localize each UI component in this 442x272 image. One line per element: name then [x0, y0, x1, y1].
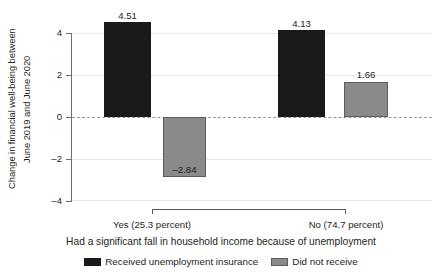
y-axis-tick-mark-neg4	[66, 201, 72, 202]
category-label-no: No (74.7 percent)	[286, 219, 406, 231]
y-tick-text-neg2: –2	[40, 154, 62, 164]
y-tick-text-neg4: –4	[40, 196, 62, 206]
bar-no-received-unemployment-insurance	[278, 30, 325, 117]
bar-yes-received-unemployment-insurance	[104, 22, 151, 117]
y-tick-text-2: 2	[40, 70, 62, 80]
gridline-neg2	[72, 159, 432, 160]
legend-label-received: Received unemployment insurance	[105, 256, 258, 268]
bar-no-did-not-receive	[344, 82, 388, 117]
bar-value-no-received: 4.13	[268, 18, 335, 29]
chart-figure: Change in financial well-being between J…	[0, 0, 442, 272]
bar-value-yes-received: 4.51	[94, 10, 161, 21]
category-label-yes: Yes (25.3 percent)	[92, 219, 212, 231]
y-tick-text-4: 4	[40, 28, 62, 38]
y-tick-label-0: 0	[40, 112, 62, 122]
black-swatch-icon	[84, 258, 101, 266]
y-tick-text-0: 0	[40, 112, 62, 122]
legend-label-did-not-receive: Did not receive	[292, 256, 357, 268]
y-tick-label-2: 2	[40, 70, 62, 80]
zero-baseline	[72, 117, 432, 118]
plot-area: 4.51 –2.84 4.13 1.66	[72, 33, 432, 201]
chart-legend: Received unemployment insurance Did not …	[0, 256, 442, 268]
y-axis-title: Change in financial well-being between J…	[0, 0, 36, 218]
y-tick-label-neg4: –4	[40, 196, 62, 206]
y-axis-title-line-2: June 2019 and June 2020	[19, 0, 35, 218]
x-axis-title: Had a significant fall in household inco…	[0, 236, 442, 248]
legend-item-received: Received unemployment insurance	[84, 256, 258, 268]
gridline-neg4	[72, 200, 432, 201]
category-bracket	[152, 209, 346, 214]
bar-value-yes-did-not-receive: –2.84	[158, 164, 211, 175]
y-tick-label-neg2: –2	[40, 154, 62, 164]
y-axis-title-line-1: Change in financial well-being between	[4, 0, 20, 218]
legend-item-did-not-receive: Did not receive	[271, 256, 357, 268]
gray-swatch-icon	[271, 258, 288, 266]
y-tick-label-4: 4	[40, 28, 62, 38]
bar-value-no-did-not-receive: 1.66	[339, 69, 393, 80]
